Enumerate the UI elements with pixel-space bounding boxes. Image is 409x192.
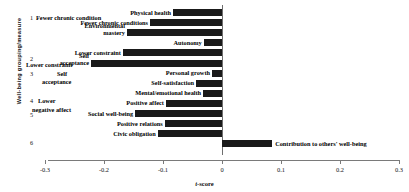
x-axis-title-rest: -score	[197, 180, 214, 187]
group-label: negative affect	[32, 106, 71, 114]
x-tick	[163, 160, 164, 164]
bar-label: Positive affect	[126, 99, 164, 107]
bar-label-line1: Self	[79, 52, 89, 60]
bar-label: Mental/emotional health	[135, 89, 201, 97]
x-tick-label: -0.3	[30, 166, 60, 173]
bar[interactable]	[135, 110, 222, 117]
bar-label: Positive relations	[117, 120, 163, 128]
group-label: Fewer chronic condition	[36, 14, 101, 22]
x-tick	[340, 160, 341, 164]
bar-row: Self-satisfaction	[48, 80, 399, 88]
bar-row: acceptanceSelf	[48, 60, 399, 68]
x-tick-label: -0.2	[89, 166, 119, 173]
y-axis-title: Well-being grouping/measure	[16, 6, 22, 116]
bar-label: Personal growth	[166, 69, 210, 77]
bar-label: Contribution to others' well-being	[275, 140, 366, 148]
bar-row: Personal growth	[48, 70, 399, 78]
bar[interactable]	[91, 60, 222, 67]
x-tick	[399, 160, 400, 164]
x-tick-label: 0.1	[266, 166, 296, 173]
plot-area: Physical healthFewer chronic conditionsm…	[48, 5, 399, 155]
group-label: acceptance	[42, 78, 71, 86]
bar-row: Lower constraint	[48, 49, 399, 57]
bar-label: Autonomy	[173, 39, 201, 47]
bar[interactable]	[123, 49, 222, 56]
bar-row: masteryEnvironmental	[48, 29, 399, 37]
x-tick	[104, 160, 105, 164]
bar[interactable]	[173, 9, 222, 16]
x-tick	[45, 160, 46, 164]
group-number: 6	[30, 139, 33, 146]
bar-label: Self-satisfaction	[151, 79, 194, 87]
bar[interactable]	[204, 39, 222, 46]
bar-label: Physical health	[130, 9, 171, 17]
group-label: Self	[57, 70, 67, 78]
bar-row: Mental/emotional health	[48, 90, 399, 98]
bar-row: Positive affect	[48, 100, 399, 108]
x-tick-label: 0	[207, 166, 237, 173]
bar[interactable]	[196, 80, 222, 87]
bar[interactable]	[222, 140, 272, 147]
group-number: 1	[30, 14, 33, 21]
group-label: Lower	[38, 97, 56, 105]
group-number: 3	[30, 70, 33, 77]
x-axis-line	[48, 160, 399, 161]
bar[interactable]	[212, 70, 222, 77]
bar-chart: Well-being grouping/measure Physical hea…	[0, 0, 409, 192]
bar[interactable]	[203, 90, 222, 97]
x-tick	[222, 160, 223, 164]
bar-row: Social well-being	[48, 110, 399, 118]
x-tick-label: 0.2	[325, 166, 355, 173]
bar[interactable]	[127, 29, 222, 36]
group-number: 4	[30, 97, 33, 104]
bar-label: Civic obligation	[113, 130, 156, 138]
bar-row: Civic obligation	[48, 130, 399, 138]
x-tick	[281, 160, 282, 164]
bar-label-line1: Environmental	[85, 22, 125, 30]
bar-row: Positive relations	[48, 120, 399, 128]
bar[interactable]	[166, 100, 222, 107]
x-axis-title: t-score	[0, 180, 409, 187]
group-label: Lower constraint	[26, 61, 72, 69]
bar-label: mastery	[103, 29, 125, 37]
bar-row: Contribution to others' well-being	[48, 140, 399, 148]
x-tick-label: 0.3	[384, 166, 409, 173]
x-tick-label: -0.1	[148, 166, 178, 173]
bar[interactable]	[165, 120, 222, 127]
bar[interactable]	[158, 130, 222, 137]
bar-row: Autonomy	[48, 39, 399, 47]
bar[interactable]	[150, 19, 222, 26]
bar-label: Social well-being	[88, 110, 133, 118]
